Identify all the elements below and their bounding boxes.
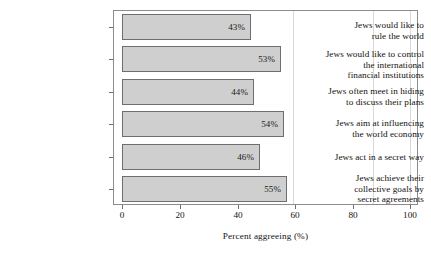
x-axis-tick-label: 80 [333, 210, 373, 221]
x-axis-tick [122, 205, 123, 209]
y-axis-tick [109, 27, 113, 28]
x-axis-tick [295, 205, 296, 209]
x-axis-tick-label: 20 [160, 210, 200, 221]
bar-row: 54% [122, 111, 284, 137]
bar-row: 53% [122, 46, 281, 72]
bar-row: 43% [122, 14, 251, 40]
bar-row: 46% [122, 144, 260, 170]
x-axis-tick-label: 60 [275, 210, 315, 221]
bar-value-label: 44% [231, 88, 253, 97]
x-axis-tick [353, 205, 354, 209]
bar-2[interactable]: 44% [122, 79, 254, 105]
x-axis-tick-label: 0 [102, 210, 142, 221]
bar-0[interactable]: 43% [122, 14, 251, 40]
bar-3[interactable]: 54% [122, 111, 284, 137]
bar-value-label: 53% [258, 55, 280, 64]
bars-area: 43% 53% 44% 54% 46% 55% [122, 10, 410, 205]
bar-4[interactable]: 46% [122, 144, 260, 170]
bar-row: 55% [122, 176, 287, 202]
bar-5[interactable]: 55% [122, 176, 287, 202]
x-axis-tick [410, 205, 411, 209]
y-axis-tick [109, 59, 113, 60]
bar-value-label: 54% [261, 120, 283, 129]
bar-value-label: 55% [264, 185, 286, 194]
y-axis-tick [109, 157, 113, 158]
bar-chart-figure: Jews would like to rule the world Jews w… [0, 0, 431, 261]
x-axis-tick-label: 100 [390, 210, 430, 221]
bar-value-label: 46% [237, 153, 259, 162]
x-axis-title: Percent aggreeing (%) [113, 231, 418, 242]
x-axis-tick [180, 205, 181, 209]
bar-1[interactable]: 53% [122, 46, 281, 72]
bar-row: 44% [122, 79, 254, 105]
x-axis-tick-label: 40 [218, 210, 258, 221]
y-axis-tick [109, 92, 113, 93]
x-axis-tick [238, 205, 239, 209]
bar-value-label: 43% [228, 23, 250, 32]
y-axis-tick [109, 124, 113, 125]
y-axis-tick [109, 189, 113, 190]
